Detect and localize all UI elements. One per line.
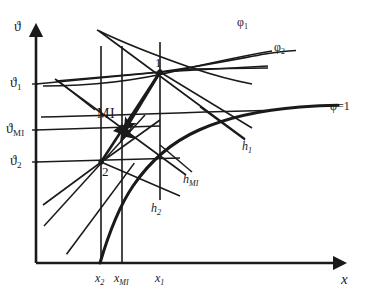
psychrometric-diagram: ϑ x ϑ1 ϑMI ϑ2 x2 xMI x1 φ1 φ2 φ=1 h1 hMI… xyxy=(0,0,365,300)
isotherm-theta2 xyxy=(36,158,180,162)
curve-label-phi1: φ1 xyxy=(237,16,248,31)
theta1-symbol: ϑ xyxy=(10,75,17,90)
phi1-symbol: φ xyxy=(237,15,244,29)
x-tick-label-x1: x1 xyxy=(155,272,164,287)
humidity-curve-group xyxy=(41,30,296,117)
x-tick-label-x2: x2 xyxy=(95,272,104,287)
x-axis-label: x xyxy=(341,272,348,287)
y-tick-label-theta1: ϑ1 xyxy=(10,76,22,92)
state-point-label-1: 1 xyxy=(155,56,162,69)
enthalpy-label-h2: h2 xyxy=(151,202,161,217)
phi2-subscript: 2 xyxy=(281,47,285,56)
curve-label-phi2: φ2 xyxy=(274,41,285,56)
marker-point-1 xyxy=(157,69,162,74)
isenthalp-h2 xyxy=(43,163,100,205)
line-upper-left-to-1 xyxy=(56,72,160,81)
theta-mi-subscript: MI xyxy=(13,128,24,138)
x2-subscript: 2 xyxy=(100,278,104,287)
theta2-symbol: ϑ xyxy=(10,153,17,168)
y-tick-label-theta-mi: ϑMI xyxy=(6,122,24,138)
h1-subscript: 1 xyxy=(248,146,252,155)
theta2-subscript: 2 xyxy=(17,160,22,170)
curve-label-phi-saturation: φ=1 xyxy=(330,100,350,112)
hmi-subscript: MI xyxy=(189,179,198,188)
state-point-label-2: 2 xyxy=(102,165,109,178)
enthalpy-label-hmi: hMI xyxy=(183,173,198,188)
xmi-subscript: MI xyxy=(119,278,128,287)
x1-subscript: 1 xyxy=(160,278,164,287)
saturation-curve-group xyxy=(100,105,338,263)
phi-saturation-curve xyxy=(100,105,338,263)
y-tick-label-theta2: ϑ2 xyxy=(10,154,22,170)
y-axis-label: ϑ xyxy=(14,20,21,34)
isotherm-theta-mi xyxy=(36,126,160,130)
enthalpy-label-h1: h1 xyxy=(242,140,252,155)
h2-subscript: 2 xyxy=(157,208,161,217)
isenthalp-group xyxy=(43,31,245,254)
diagram-canvas xyxy=(0,0,365,300)
theta1-subscript: 1 xyxy=(17,82,22,92)
phi1-subscript: 1 xyxy=(244,22,248,31)
axis-group xyxy=(36,30,340,263)
x-tick-label-xmi: xMI xyxy=(114,272,129,287)
theta-mi-symbol: ϑ xyxy=(6,121,13,136)
state-point-label-mi: MI xyxy=(97,107,115,121)
phi2-symbol: φ xyxy=(274,40,281,54)
isenthalp-h1 xyxy=(99,31,245,139)
